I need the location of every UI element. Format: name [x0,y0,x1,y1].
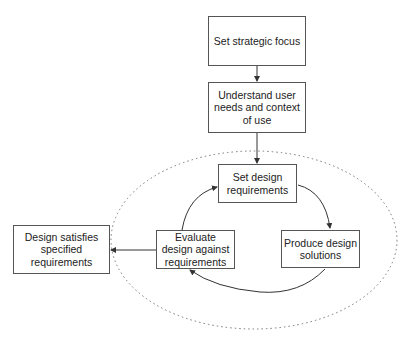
node-label: Understand user needs and context of use [211,89,303,127]
node-evaluate-design: Evaluate design against requirements [156,230,235,269]
node-set-design-requirements: Set design requirements [218,164,297,203]
node-design-satisfies-requirements: Design satisfies specified requirements [13,225,110,274]
node-label: Set design requirements [221,171,294,196]
node-label: Evaluate design against requirements [159,231,232,269]
diagram-canvas [0,0,406,337]
node-label: Design satisfies specified requirements [16,231,107,269]
node-understand-user-needs: Understand user needs and context of use [208,82,306,133]
node-label: Set strategic focus [214,35,300,48]
node-produce-design-solutions: Produce design solutions [281,230,360,268]
arrow-produce-to-evaluate [190,269,325,292]
arrow-setreq-to-produce [298,185,330,228]
node-set-strategic-focus: Set strategic focus [208,16,306,66]
arrow-evaluate-to-setreq [182,187,217,230]
node-label: Produce design solutions [284,237,357,262]
